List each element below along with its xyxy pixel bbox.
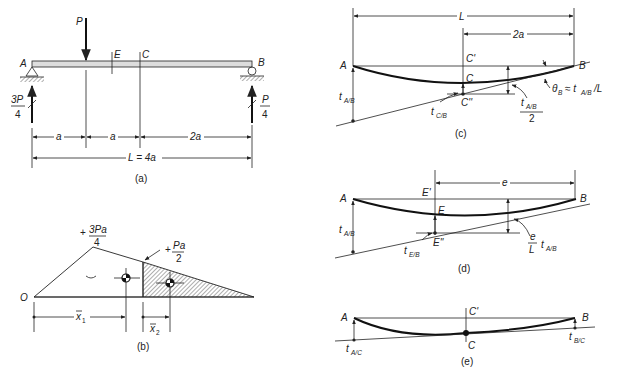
- dim-e: e: [502, 177, 508, 188]
- t-cb: t: [431, 106, 435, 117]
- theta-expr-sub: A/B: [580, 89, 592, 96]
- t-bc: t: [569, 331, 573, 342]
- t-ac-sub: A/C: [350, 349, 362, 356]
- dim-a2: a: [110, 131, 116, 142]
- label-a: A: [340, 312, 348, 323]
- caption-a: (a): [135, 173, 147, 184]
- ratio-t: t: [541, 239, 545, 250]
- label-a: A: [19, 58, 27, 69]
- xbar1-sub: 1: [82, 317, 86, 324]
- t-eb: t: [404, 245, 408, 256]
- xbar2-sub: 2: [156, 329, 160, 336]
- caption-e: (e): [461, 356, 473, 367]
- span-label: L: [459, 11, 465, 22]
- load-label: P: [76, 16, 83, 27]
- reaction-right-num: P: [262, 94, 269, 105]
- label-b: B: [579, 60, 586, 71]
- dim-2a: 2a: [512, 29, 525, 40]
- sagging-curve-icon: [86, 276, 96, 278]
- label-a: A: [339, 193, 347, 204]
- reaction-left-den: 4: [15, 109, 21, 120]
- t-ab-sub: A/B: [343, 230, 355, 237]
- mid-sign: +: [165, 244, 171, 255]
- mid-num: Pa: [173, 240, 186, 251]
- label-b: B: [258, 57, 265, 68]
- t-eb-sub: E/B: [409, 251, 420, 258]
- label-c: C: [466, 73, 474, 84]
- theta-expr: ≈ t: [565, 83, 577, 94]
- t-bc-sub: B/C: [574, 337, 585, 344]
- label-c: C: [142, 49, 150, 60]
- peak-den: 4: [94, 237, 100, 248]
- t-ac: t: [346, 343, 350, 354]
- figure-d-deflection: e A B E' E E'' t A/B t E/B e L t A/B (d): [335, 170, 590, 274]
- label-c-dprime: C'': [461, 97, 473, 108]
- label-a: A: [339, 60, 347, 71]
- figure-c-deflection: L 2a A B C' C C'' t A/B t C/B t A/B 2 θ …: [336, 8, 602, 139]
- t-ab-sub: A/B: [343, 97, 355, 104]
- theta-sub: B: [558, 89, 563, 96]
- beam: [32, 61, 252, 67]
- label-b: B: [580, 193, 587, 204]
- label-b: B: [582, 312, 589, 323]
- roller-support-icon: [248, 67, 256, 75]
- moment-triangle: [34, 247, 143, 297]
- label-c-prime: C': [466, 53, 476, 64]
- half-num: t: [521, 97, 525, 108]
- peak-sign: +: [80, 227, 86, 238]
- t-ab: t: [339, 224, 343, 235]
- label-c: C: [468, 340, 476, 351]
- reaction-right-den: 4: [262, 109, 268, 120]
- ratio-den: L: [529, 244, 535, 255]
- ratio-num: e: [530, 231, 536, 242]
- half-den: 2: [529, 113, 535, 124]
- xbar2: x: [149, 323, 156, 334]
- ratio-t-sub: A/B: [545, 245, 557, 252]
- label-e: E: [438, 205, 445, 216]
- label-o: O: [20, 292, 28, 303]
- t-cb-sub: C/B: [436, 112, 448, 119]
- dim-2a: 2a: [189, 131, 202, 142]
- peak-num: 3Pa: [89, 224, 107, 235]
- dim-total: L = 4a: [128, 152, 156, 163]
- caption-c: (c): [455, 128, 467, 139]
- reaction-left-num: 3P: [11, 94, 24, 105]
- label-c-prime: C': [469, 306, 479, 317]
- dim-a1: a: [56, 131, 62, 142]
- caption-b: (b): [137, 341, 149, 352]
- figure-a-beam-loading: P A B E C 3P 4 P 4 a a: [11, 16, 270, 184]
- caption-d: (d): [458, 263, 470, 274]
- label-e-prime: E': [422, 187, 432, 198]
- mid-den: 2: [176, 253, 182, 264]
- half-num-sub: A/B: [525, 103, 537, 110]
- xbar1: x: [75, 311, 82, 322]
- t-ab: t: [339, 91, 343, 102]
- moment-hatched-region: [143, 262, 254, 297]
- point-c-icon: [463, 330, 469, 336]
- figure-b-moment-diagram: O + 3Pa 4 + Pa 2 x 1 x 2 (: [20, 224, 254, 352]
- pin-support-icon: [26, 67, 38, 76]
- figure-e-deflection: A B C' C t A/C t B/C (e): [335, 306, 595, 367]
- label-e: E: [114, 49, 121, 60]
- elastic-curve: [353, 199, 576, 216]
- theta-tail: /L: [593, 83, 602, 94]
- label-e-dprime: E'': [433, 237, 445, 248]
